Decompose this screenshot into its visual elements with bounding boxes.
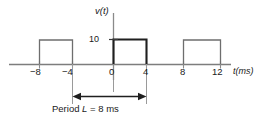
pulse-negative xyxy=(40,40,73,64)
pulse-positive xyxy=(184,40,221,64)
pulse-center xyxy=(114,40,147,65)
x-tick-label-minus-8: −8 xyxy=(30,67,41,77)
x-axis-label: t(ms) xyxy=(233,67,254,76)
waveform-figure: v(t) 10 −8 −4 0 4 8 12 t(ms) Period L = … xyxy=(0,0,263,124)
arrowhead-left xyxy=(73,93,82,100)
x-tick-label-minus-4: −4 xyxy=(62,67,73,77)
waveform-plot xyxy=(0,0,263,124)
period-annotation-label: Period L = 8 ms xyxy=(52,104,119,114)
x-tick-label-12: 12 xyxy=(212,67,223,77)
x-tick-label-4: 4 xyxy=(143,67,148,77)
x-tick-label-0: 0 xyxy=(109,67,114,77)
period-prefix: Period xyxy=(52,103,82,114)
y-axis-label: v(t) xyxy=(95,6,109,16)
x-tick-label-8: 8 xyxy=(180,67,185,77)
arrowhead-right xyxy=(138,93,147,100)
period-suffix: = 8 ms xyxy=(87,103,118,114)
period-dimension-arrow xyxy=(73,93,147,100)
amplitude-label: 10 xyxy=(89,35,99,44)
